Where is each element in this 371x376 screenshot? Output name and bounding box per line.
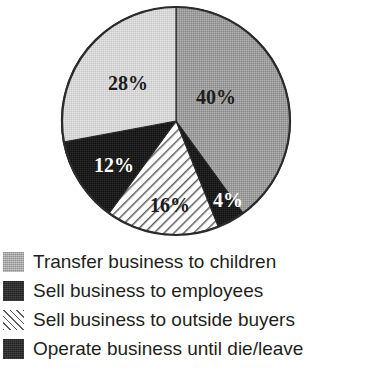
legend-item-sell-to-outside-buyers: Sell business to outside buyers [0,305,371,334]
legend-item-sell-to-employees: Sell business to employees [0,276,371,305]
legend-item-operate-until-die-leave: Operate business until die/leave [0,334,371,363]
legend-swatch-hatch-icon [3,310,24,330]
pie-label-28: 28% [108,72,148,94]
legend-swatch-gray-icon [3,252,24,272]
legend-label-sell-to-employees: Sell business to employees [33,280,263,301]
pie-label-16: 16% [150,194,190,216]
pie-label-4: 4% [213,189,243,211]
legend-label-operate-until-die-leave: Operate business until die/leave [33,338,303,359]
pie-label-40: 40% [196,86,236,108]
legend-swatch-black-2-icon [3,339,24,359]
pie-chart: 40% 4% 16% 12% 28% [0,0,371,243]
legend-item-transfer-to-children: Transfer business to children [0,247,371,276]
legend-label-sell-to-outside-buyers: Sell business to outside buyers [33,309,295,330]
legend-label-transfer-to-children: Transfer business to children [33,251,276,272]
pie-chart-svg: 40% 4% 16% 12% 28% [0,0,371,243]
pie-label-12: 12% [94,154,134,176]
chart-legend: Transfer business to children Sell busin… [0,247,371,376]
legend-swatch-black-icon [3,281,24,301]
